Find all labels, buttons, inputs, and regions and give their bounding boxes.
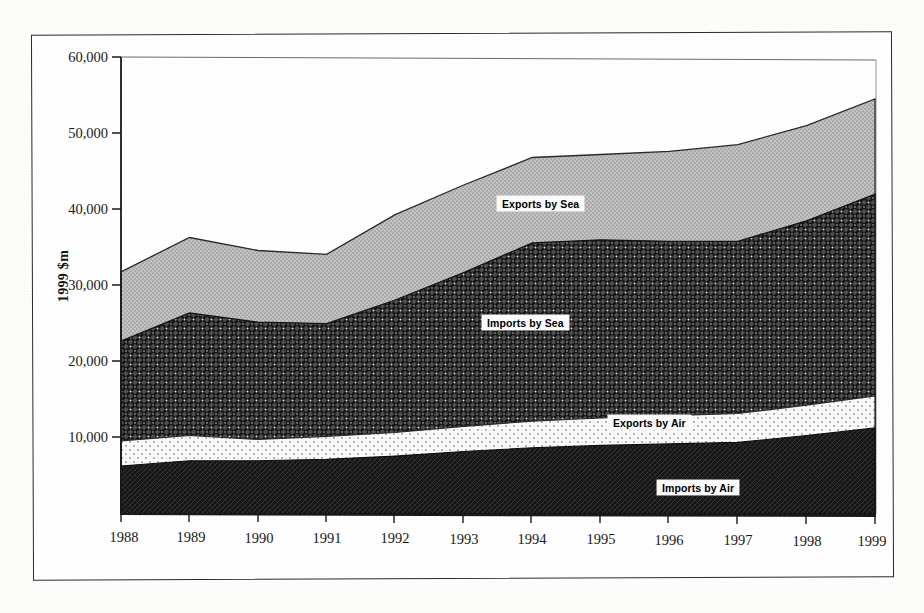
x-tick-1994: 1994 bbox=[518, 531, 548, 547]
y-tick-20000: 20,000 bbox=[68, 353, 108, 369]
x-tick-1997: 1997 bbox=[724, 532, 753, 548]
x-tick-1996: 1996 bbox=[655, 532, 684, 548]
x-axis-tick-labels: 1988 1989 1990 1991 1992 1993 1994 1995 … bbox=[110, 529, 887, 549]
x-tick-1998: 1998 bbox=[793, 533, 822, 549]
chart-svg: 10,000 20,000 30,000 40,000 50,000 60,00… bbox=[0, 0, 924, 613]
x-tick-1991: 1991 bbox=[313, 530, 342, 546]
series-label-imports-by-air: Imports by Air bbox=[657, 480, 739, 495]
y-tick-10000: 10,000 bbox=[68, 429, 108, 445]
x-tick-1990: 1990 bbox=[245, 530, 274, 546]
y-tick-60000: 60,000 bbox=[68, 49, 108, 65]
series-label-exports-by-air: Exports by Air bbox=[608, 415, 691, 430]
x-tick-1993: 1993 bbox=[450, 531, 479, 547]
y-tick-30000: 30,000 bbox=[68, 277, 108, 293]
y-tick-50000: 50,000 bbox=[68, 125, 108, 141]
y-tick-40000: 40,000 bbox=[68, 201, 108, 217]
x-tick-1999: 1999 bbox=[858, 533, 887, 549]
y-axis-ticks bbox=[112, 57, 121, 437]
x-tick-1995: 1995 bbox=[587, 531, 616, 547]
x-tick-1992: 1992 bbox=[381, 530, 410, 546]
scanned-page: 10,000 20,000 30,000 40,000 50,000 60,00… bbox=[0, 0, 924, 613]
series-label-exports-by-sea: Exports by Sea bbox=[497, 196, 584, 211]
x-tick-1989: 1989 bbox=[177, 529, 206, 545]
x-tick-1988: 1988 bbox=[110, 529, 139, 545]
y-axis-tick-labels: 10,000 20,000 30,000 40,000 50,000 60,00… bbox=[68, 49, 108, 445]
y-axis-title: 1999 $m bbox=[56, 206, 72, 346]
stacked-area-chart: 10,000 20,000 30,000 40,000 50,000 60,00… bbox=[0, 0, 924, 613]
series-label-imports-by-sea: Imports by Sea bbox=[482, 315, 569, 330]
